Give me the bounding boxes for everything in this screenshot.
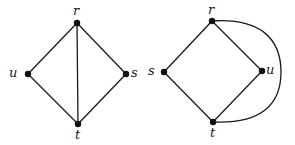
label-u: u xyxy=(266,63,274,76)
edge-r-t xyxy=(77,23,78,124)
graph-diagram: r u s t r s u t xyxy=(0,0,295,145)
label-u: u xyxy=(9,66,17,79)
edge-s-t xyxy=(78,74,126,124)
edge-r-s xyxy=(164,21,212,72)
left-graph xyxy=(25,20,129,127)
edge-r-u xyxy=(212,21,262,71)
label-s: s xyxy=(148,64,155,77)
label-r: r xyxy=(208,3,214,16)
node-s xyxy=(123,71,129,77)
node-r xyxy=(209,18,215,24)
edge-s-t xyxy=(164,72,213,122)
edge-r-s xyxy=(77,23,126,74)
label-t: t xyxy=(75,128,80,141)
node-u xyxy=(259,68,265,74)
node-r xyxy=(74,20,80,26)
label-t: t xyxy=(210,126,215,139)
node-s xyxy=(161,69,167,75)
label-r: r xyxy=(73,4,79,17)
node-u xyxy=(25,71,31,77)
edge-u-t xyxy=(28,74,78,124)
edge-r-u xyxy=(28,23,77,74)
right-graph xyxy=(161,18,281,125)
label-s: s xyxy=(131,66,138,79)
edge-u-t xyxy=(213,71,262,122)
